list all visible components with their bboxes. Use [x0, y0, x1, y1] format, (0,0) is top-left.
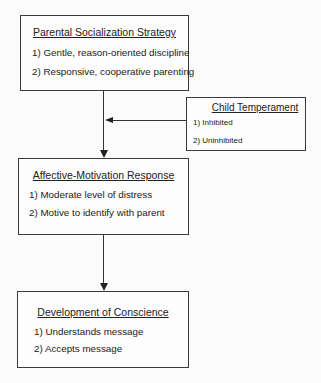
- conscience-item-2: 2) Accepts message: [34, 343, 122, 354]
- arrowhead-into-conscience: [100, 283, 108, 291]
- strategy-title: Parental Socialization Strategy: [21, 26, 188, 38]
- conscience-item-1: 1) Understands message: [34, 326, 143, 337]
- temperament-item-2: 2) Uninhibited: [193, 136, 242, 145]
- edge-strategy-to-response: [103, 90, 104, 150]
- strategy-item-2: 2) Responsive, cooperative parenting: [32, 66, 194, 77]
- arrowhead-into-main-edge: [105, 117, 113, 123]
- arrowhead-into-response: [100, 150, 108, 158]
- conscience-title: Development of Conscience: [18, 306, 188, 318]
- child-temperament-box: Child Temperament 1) Inhibited 2) Uninhi…: [186, 97, 306, 151]
- temperament-item-1: 1) Inhibited: [193, 118, 233, 127]
- development-of-conscience-box: Development of Conscience 1) Understands…: [17, 291, 189, 368]
- parental-socialization-strategy-box: Parental Socialization Strategy 1) Gentl…: [20, 15, 189, 91]
- response-item-1: 1) Moderate level of distress: [29, 189, 152, 200]
- temperament-title: Child Temperament: [205, 102, 305, 113]
- edge-temperament-to-main: [112, 120, 186, 121]
- response-title: Affective-Motivation Response: [19, 169, 188, 181]
- strategy-item-1: 1) Gentle, reason-oriented discipline: [32, 47, 189, 58]
- edge-response-to-conscience: [103, 234, 104, 284]
- response-item-2: 2) Motive to identify with parent: [29, 207, 165, 218]
- affective-motivation-response-box: Affective-Motivation Response 1) Moderat…: [18, 158, 189, 235]
